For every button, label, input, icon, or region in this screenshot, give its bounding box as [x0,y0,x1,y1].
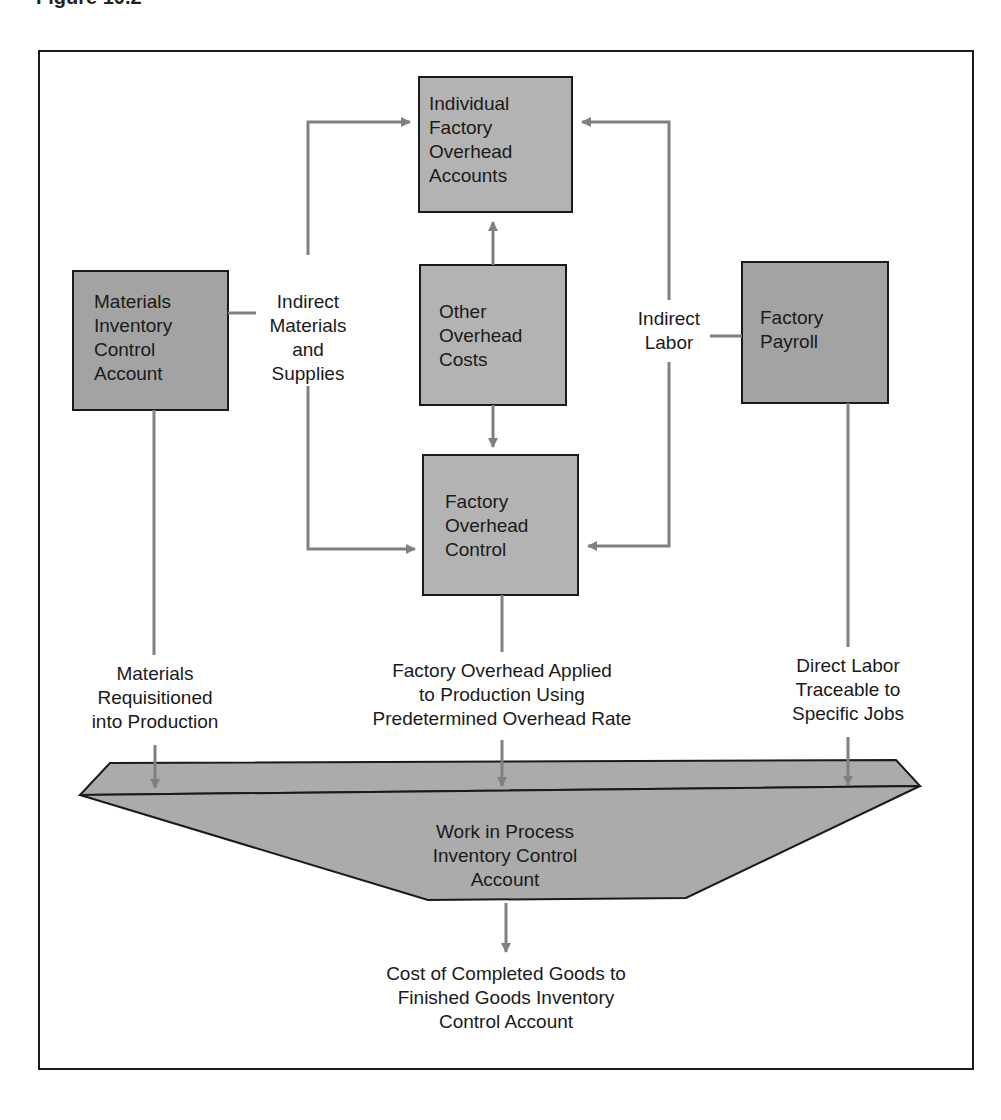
wip-label: Work in Process Inventory Control Accoun… [400,820,610,892]
text-line: Overhead [429,140,512,164]
text-line: Account [94,362,172,386]
indirect-labor-to-individual-arrow [582,122,669,300]
text-line: Predetermined Overhead Rate [356,707,648,731]
text-line: into Production [80,710,230,734]
text-line: and [250,338,366,362]
text-line: Cost of Completed Goods to [356,962,656,986]
indirect-labor-label: Indirect Labor [624,307,714,355]
overhead-applied-label: Factory Overhead Applied to Production U… [356,659,648,731]
text-line: Finished Goods Inventory [356,986,656,1010]
indirect-materials-to-control-arrow [308,386,415,549]
materials-inventory-label: Materials Inventory Control Account [94,290,172,386]
individual-overhead-label: Individual Factory Overhead Accounts [429,92,512,188]
completed-goods-label: Cost of Completed Goods to Finished Good… [356,962,656,1034]
text-line: Overhead [445,514,528,538]
other-overhead-label: Other Overhead Costs [439,300,522,372]
text-line: Control [445,538,528,562]
text-line: Accounts [429,164,512,188]
text-line: Other [439,300,522,324]
indirect-materials-to-individual-arrow [308,122,410,255]
indirect-materials-label: Indirect Materials and Supplies [250,290,366,386]
text-line: Factory [760,306,823,330]
text-line: Materials [94,290,172,314]
text-line: Indirect [250,290,366,314]
overhead-control-label: Factory Overhead Control [445,490,528,562]
text-line: Payroll [760,330,823,354]
text-line: Control [94,338,172,362]
text-line: Supplies [250,362,366,386]
text-line: Factory [429,116,512,140]
text-line: Inventory Control [400,844,610,868]
text-line: Inventory [94,314,172,338]
factory-payroll-label: Factory Payroll [760,306,823,354]
direct-labor-label: Direct Labor Traceable to Specific Jobs [770,654,926,726]
text-line: Factory [445,490,528,514]
text-line: Requisitioned [80,686,230,710]
text-line: Overhead [439,324,522,348]
materials-requisitioned-label: Materials Requisitioned into Production [80,662,230,734]
text-line: Work in Process [400,820,610,844]
text-line: Indirect [624,307,714,331]
text-line: Control Account [356,1010,656,1034]
text-line: Materials [250,314,366,338]
text-line: Materials [80,662,230,686]
text-line: Factory Overhead Applied [356,659,648,683]
indirect-labor-to-control-arrow [588,362,669,546]
text-line: Specific Jobs [770,702,926,726]
text-line: Labor [624,331,714,355]
text-line: Direct Labor [770,654,926,678]
text-line: Traceable to [770,678,926,702]
text-line: Individual [429,92,512,116]
text-line: Costs [439,348,522,372]
text-line: to Production Using [356,683,648,707]
text-line: Account [400,868,610,892]
